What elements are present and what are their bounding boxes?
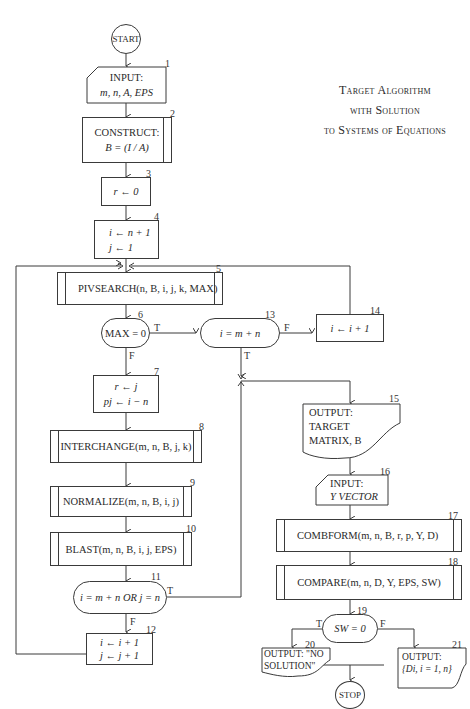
step-number-11: 11 xyxy=(151,571,161,582)
blast-process-10: BLAST(m, n, B, i, j, EPS) xyxy=(50,532,192,566)
step-number-7: 7 xyxy=(154,366,159,377)
blast-label: BLAST(m, n, B, i, j, EPS) xyxy=(66,542,177,557)
input-y-label: INPUT: xyxy=(330,477,363,490)
step-number-13: 13 xyxy=(265,309,275,320)
increment-j-label: j ← j + 1 xyxy=(100,649,139,662)
step-number-3: 3 xyxy=(146,168,151,179)
step-number-18: 18 xyxy=(448,556,458,567)
output-label: OUTPUT: xyxy=(309,406,353,420)
step-number-4: 4 xyxy=(154,211,159,222)
step-number-14: 14 xyxy=(370,305,380,316)
step-number-16: 16 xyxy=(380,466,390,477)
compare-label: COMPARE(m, n, D, Y, EPS, SW) xyxy=(297,575,441,590)
step-number-12: 12 xyxy=(146,624,156,635)
input-label: INPUT: xyxy=(110,70,143,85)
decision-sw-label: SW = 0 xyxy=(334,621,366,636)
init-j-label: j ← 1 xyxy=(109,240,133,255)
interchange-label: INTERCHANGE(m, n, B, j, k) xyxy=(60,439,191,454)
normalize-label: NORMALIZE(m, n, B, i, j) xyxy=(63,494,179,509)
step-number-6: 6 xyxy=(138,309,143,320)
branch-false-6: F xyxy=(129,350,135,361)
assign-r-3: r ← 0 xyxy=(101,177,151,206)
title-line-3: to Systems of Equations xyxy=(300,120,470,140)
input-node-1: INPUT: m, n, A, EPS xyxy=(87,67,166,103)
increment-i14-label: i ← i + 1 xyxy=(330,321,369,336)
decision-i-end-label: i = m + n xyxy=(220,326,260,341)
output-target-label: TARGET xyxy=(309,420,350,434)
input-y-vector-16: INPUT: Y VECTOR xyxy=(316,475,388,505)
stop-terminal: STOP xyxy=(335,681,365,709)
input-vars: m, n, A, EPS xyxy=(100,85,153,100)
increment-i-label: i ← i + 1 xyxy=(100,636,139,649)
decision-max-label: MAX = 0 xyxy=(105,326,146,341)
start-terminal: START xyxy=(111,24,141,54)
step-number-15: 15 xyxy=(389,393,399,404)
branch-false-11: F xyxy=(130,616,136,627)
branch-true-11: T xyxy=(167,585,173,596)
increment-ij-12: i ← i + 1 j ← j + 1 xyxy=(86,633,153,665)
assign-p-label: pj ← i − n xyxy=(104,394,148,409)
decision-end-loop-label: i = m + n OR j = n xyxy=(80,590,160,605)
branch-false-19: F xyxy=(380,618,386,629)
pivsearch-process-5: PIVSEARCH(n, B, i, j, k, MAX) xyxy=(57,272,223,305)
assign-r-label: r ← 0 xyxy=(113,184,138,199)
step-number-17: 17 xyxy=(448,510,458,521)
output-no-solution-20: OUTPUT: "NO SOLUTION" xyxy=(262,648,332,674)
combform-label: COMBFORM(m, n, B, r, p, Y, D) xyxy=(297,528,438,543)
branch-false-13: F xyxy=(284,322,290,333)
decision-sw-zero-19: SW = 0 xyxy=(322,614,378,643)
output-target-matrix-15: OUTPUT: TARGET MATRIX, B xyxy=(303,404,400,454)
normalize-process-9: NORMALIZE(m, n, B, i, j) xyxy=(50,486,192,517)
interchange-process-8: INTERCHANGE(m, n, B, j, k) xyxy=(50,430,202,463)
step-number-8: 8 xyxy=(199,421,204,432)
output-d-set-label: {Di, i = 1, n} xyxy=(402,663,452,675)
step-number-1: 1 xyxy=(165,58,170,69)
title-line-2: with Solution xyxy=(300,100,470,120)
init-ij-4: i ← n + 1 j ← 1 xyxy=(94,220,159,259)
step-number-2: 2 xyxy=(170,108,175,119)
assign-r-p-7: r ← j pj ← i − n xyxy=(93,375,159,413)
output-d-vector-21: OUTPUT: {Di, i = 1, n} xyxy=(398,648,466,686)
step-number-9: 9 xyxy=(190,477,195,488)
output-d-label: OUTPUT: xyxy=(402,651,442,663)
construct-label: CONSTRUCT: xyxy=(95,125,160,140)
increment-i-14: i ← i + 1 xyxy=(316,314,384,342)
branch-true-13: T xyxy=(244,350,250,361)
pivsearch-label: PIVSEARCH(n, B, i, j, k, MAX) xyxy=(78,281,217,296)
branch-true-19: T xyxy=(316,618,322,629)
init-i-label: i ← n + 1 xyxy=(109,225,151,240)
step-number-21: 21 xyxy=(452,639,462,650)
start-label: START xyxy=(112,32,139,47)
step-number-5: 5 xyxy=(216,263,221,274)
step-number-20: 20 xyxy=(305,639,315,650)
branch-true-6: T xyxy=(154,322,160,333)
construct-process-2: CONSTRUCT: B = (I / A) xyxy=(82,117,172,163)
decision-max-zero-6: MAX = 0 xyxy=(101,318,150,348)
combform-process-17: COMBFORM(m, n, B, r, p, Y, D) xyxy=(276,519,462,552)
output-solution-label: SOLUTION" xyxy=(264,660,315,672)
title-line-1: Target Algorithm xyxy=(300,80,470,100)
step-number-19: 19 xyxy=(357,605,367,616)
decision-i-end-13: i = m + n xyxy=(200,318,280,348)
assign-r-j-label: r ← j xyxy=(115,379,138,394)
output-matrix-label: MATRIX, B xyxy=(309,434,362,448)
construct-formula: B = (I / A) xyxy=(105,140,149,155)
step-number-10: 10 xyxy=(186,523,196,534)
input-y-vector-label: Y VECTOR xyxy=(330,490,378,503)
compare-process-18: COMPARE(m, n, D, Y, EPS, SW) xyxy=(276,565,462,600)
stop-label: STOP xyxy=(339,688,361,703)
diagram-title: Target Algorithm with Solution to System… xyxy=(300,80,470,140)
decision-end-loop-11: i = m + n OR j = n xyxy=(73,581,167,614)
